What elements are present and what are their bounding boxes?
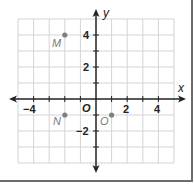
x-axis-label: x xyxy=(177,81,185,95)
y-tick-label: 2 xyxy=(83,61,89,73)
y-tick-label: 4 xyxy=(83,29,90,41)
x-tick-label: −4 xyxy=(23,103,36,115)
y-tick-label: −2 xyxy=(76,125,89,137)
point-label: N xyxy=(53,115,61,127)
x-tick-labels: −4 2 4 xyxy=(23,103,161,115)
y-axis-label: y xyxy=(102,6,110,20)
point-label: O xyxy=(100,115,109,127)
point-label: M xyxy=(52,37,62,49)
x-tick-label: 2 xyxy=(123,103,129,115)
coordinate-plane: x y −4 2 4 4 2 −2 O M N xyxy=(0,0,194,184)
origin-label: O xyxy=(82,102,91,114)
x-tick-label: 4 xyxy=(154,103,161,115)
x-axis: x xyxy=(9,81,186,103)
y-axis: y xyxy=(93,6,111,173)
